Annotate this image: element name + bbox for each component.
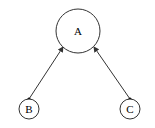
node-a-label: A	[74, 25, 82, 37]
node-c-label: C	[126, 103, 133, 115]
node-c[interactable]: C	[120, 99, 140, 119]
edge-c-to-a[interactable]	[94, 47, 132, 101]
node-b[interactable]: B	[19, 99, 39, 119]
diagram-canvas: A B C	[0, 0, 155, 128]
node-a[interactable]: A	[56, 9, 100, 53]
edge-b-to-a[interactable]	[27, 47, 63, 101]
node-b-label: B	[25, 103, 32, 115]
